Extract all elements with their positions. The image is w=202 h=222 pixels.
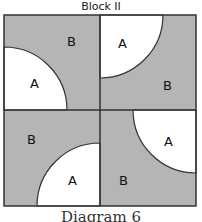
label-a-top-left: A: [30, 76, 39, 91]
label-b-bottom-left: B: [27, 132, 36, 147]
label-a-bottom-left: A: [68, 173, 77, 188]
label-b-top-right: B: [163, 78, 172, 93]
diagram-caption: Diagram 6: [0, 208, 202, 222]
label-b-bottom-right: B: [119, 173, 128, 188]
label-b-top-left: B: [67, 34, 76, 49]
block-diagram: A B A B B A A B: [0, 0, 202, 222]
label-a-bottom-right: A: [164, 134, 173, 149]
label-a-top-right: A: [118, 36, 127, 51]
